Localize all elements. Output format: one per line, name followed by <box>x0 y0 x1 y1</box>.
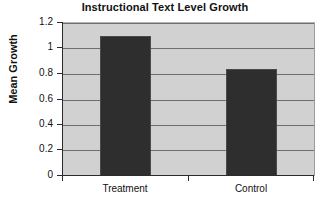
bar-control <box>226 69 277 176</box>
y-tick-label: 1 <box>47 42 53 52</box>
y-tick-mark <box>57 99 62 100</box>
y-axis-line <box>62 22 63 176</box>
bar-treatment <box>100 36 151 176</box>
bars-layer <box>63 23 314 176</box>
y-tick-label: 0 <box>47 170 53 180</box>
bar-chart: Instructional Text Level Growth Mean Gro… <box>0 0 330 204</box>
y-tick-label: 1.2 <box>39 17 53 27</box>
y-tick-label: 0.4 <box>39 119 53 129</box>
y-axis-title: Mean Growth <box>7 24 19 114</box>
x-tick-mark <box>188 176 189 181</box>
y-tick-mark <box>57 124 62 125</box>
x-tick-mark <box>313 176 314 181</box>
y-tick-label: 0.6 <box>39 94 53 104</box>
chart-title: Instructional Text Level Growth <box>0 1 330 13</box>
x-tick-label: Control <box>188 183 314 195</box>
x-tick-label: Treatment <box>62 183 188 195</box>
y-tick-label: 0.2 <box>39 144 53 154</box>
x-tick-mark <box>62 176 63 181</box>
y-tick-mark <box>57 149 62 150</box>
y-tick-mark <box>57 73 62 74</box>
y-tick-label: 0.8 <box>39 68 53 78</box>
y-tick-mark <box>57 47 62 48</box>
plot-area <box>62 22 315 176</box>
y-tick-mark <box>57 22 62 23</box>
